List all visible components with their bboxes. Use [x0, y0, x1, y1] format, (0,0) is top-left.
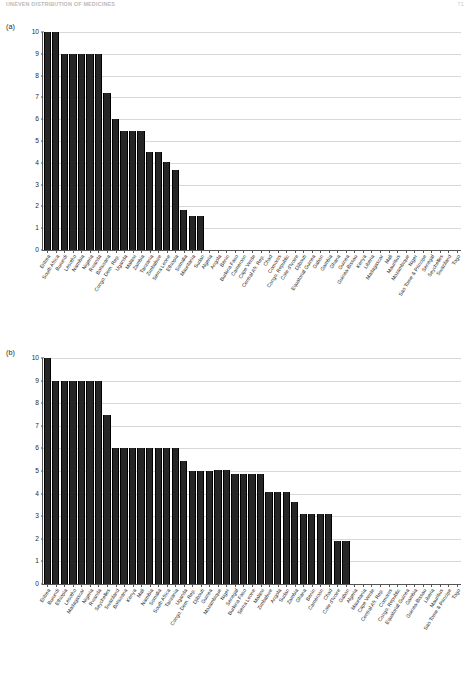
- bar: [155, 448, 162, 584]
- y-tick-label: 3: [35, 181, 39, 188]
- bar: [274, 492, 281, 584]
- bar-slot: [410, 358, 419, 584]
- panel-label-a: (a): [6, 22, 15, 31]
- bar: [61, 54, 68, 250]
- bar: [120, 448, 127, 584]
- bar-slot: [299, 32, 308, 250]
- bar: [137, 131, 144, 250]
- bar-slot: [376, 32, 385, 250]
- bar-slot: [350, 358, 359, 584]
- bar-slot: [342, 32, 351, 250]
- bar: [86, 381, 93, 584]
- bar-slot: [299, 358, 308, 584]
- x-tick: [307, 584, 316, 587]
- bar-slot: [453, 32, 462, 250]
- x-tick: [214, 584, 223, 587]
- bar: [291, 502, 298, 584]
- bar-slot: [43, 358, 52, 584]
- bar: [172, 170, 179, 250]
- bar: [248, 474, 255, 584]
- bar-slot: [145, 32, 154, 250]
- x-tick: [94, 584, 103, 587]
- bar-slot: [384, 32, 393, 250]
- x-tick: [222, 250, 231, 253]
- bar-slot: [205, 32, 214, 250]
- y-tick-label: 2: [35, 536, 39, 543]
- bar-slot: [248, 358, 257, 584]
- bar-slot: [393, 32, 402, 250]
- bar-slot: [273, 32, 282, 250]
- x-tick: [418, 250, 427, 253]
- x-tick: [231, 250, 240, 253]
- bar: [129, 448, 136, 584]
- bar-slot: [367, 32, 376, 250]
- y-tick-label: 7: [35, 423, 39, 430]
- x-tick: [120, 250, 129, 253]
- bar-slot: [171, 358, 180, 584]
- x-tick: [248, 584, 257, 587]
- bar-slot: [444, 32, 453, 250]
- x-tick: [86, 250, 95, 253]
- x-tick: [265, 250, 274, 253]
- bar-slot: [418, 32, 427, 250]
- x-tick: [188, 250, 197, 253]
- bar-slot: [307, 32, 316, 250]
- bar-slot: [120, 32, 129, 250]
- x-tick: [69, 584, 78, 587]
- x-tick: [299, 584, 308, 587]
- bar: [103, 415, 110, 585]
- x-tick: [52, 584, 61, 587]
- bar: [78, 381, 85, 584]
- bar-slot: [333, 32, 342, 250]
- bar: [78, 54, 85, 250]
- bar-slot: [43, 32, 52, 250]
- bar: [61, 381, 68, 584]
- y-tick-label: 4: [35, 490, 39, 497]
- x-tick: [359, 584, 368, 587]
- x-tick: [256, 584, 265, 587]
- y-tick-label: 5: [35, 468, 39, 475]
- y-tick-label: 7: [35, 94, 39, 101]
- bar-slot: [290, 32, 299, 250]
- bar-slot: [222, 32, 231, 250]
- x-tick: [359, 250, 368, 253]
- bar-slot: [316, 358, 325, 584]
- bar-slot: [376, 358, 385, 584]
- bar-slot: [453, 358, 462, 584]
- x-tick: [325, 250, 334, 253]
- x-tick: [111, 584, 120, 587]
- bar-slot: [359, 358, 368, 584]
- x-tick: [333, 250, 342, 253]
- bar-slot: [231, 358, 240, 584]
- x-tick: [171, 250, 180, 253]
- bar-slot: [188, 358, 197, 584]
- bar-slot: [435, 32, 444, 250]
- y-axis-b: 012345678910: [22, 358, 42, 584]
- bar: [325, 514, 332, 584]
- x-tick: [43, 250, 52, 253]
- x-tick: [60, 584, 69, 587]
- bar-slot: [52, 358, 61, 584]
- bar-slot: [256, 358, 265, 584]
- bar: [308, 514, 315, 584]
- bar-slot: [60, 358, 69, 584]
- x-tick: [393, 584, 402, 587]
- x-tick: [154, 584, 163, 587]
- bar: [120, 131, 127, 250]
- y-tick-label: 6: [35, 445, 39, 452]
- bar-slot: [367, 358, 376, 584]
- bar-slot: [69, 358, 78, 584]
- bar-slot: [171, 32, 180, 250]
- x-tick: [128, 250, 137, 253]
- bar-slot: [94, 32, 103, 250]
- x-tick: [401, 250, 410, 253]
- bar: [189, 471, 196, 584]
- x-tick: [137, 250, 146, 253]
- bar: [44, 32, 51, 250]
- header-page-number: 71: [458, 1, 464, 7]
- plot-canvas-a: EritreaSouth AfricaBurundiLesothoNamibia…: [42, 32, 461, 251]
- x-tick: [325, 584, 334, 587]
- bar: [112, 119, 119, 250]
- bar: [155, 152, 162, 250]
- x-tick: [180, 250, 189, 253]
